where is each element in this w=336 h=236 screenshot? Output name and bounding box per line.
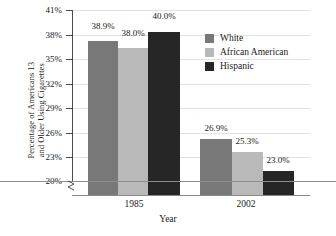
x-tick-label-2002: 2002 [216,199,276,209]
bar-2002-white [200,139,232,195]
y-tick-mark-29 [66,108,72,109]
y-tick-mark-41 [66,10,72,11]
bar-label-1985-hispanic: 40.0% [141,12,187,21]
y-tick-mark-32 [66,84,72,85]
bar-1985-hispanic [148,32,180,195]
legend-item-african-american: African American [205,45,288,59]
y-tick-mark-23 [66,157,72,158]
x-tick-label-1985: 1985 [104,199,164,209]
y-tick-label-26: 26% [28,129,62,138]
x-axis-baseline [72,195,310,196]
legend-item-white: White [205,31,288,45]
bar-1985-white [88,41,118,195]
bar-2002-hispanic [263,171,294,195]
bar-chart: Percentage of Americans 13 and Older Usi… [0,0,336,236]
legend-swatch-hispanic-icon [205,62,214,71]
axis-break-icon [66,180,76,192]
legend: White African American Hispanic [205,31,288,73]
legend-item-hispanic: Hispanic [205,59,288,73]
y-tick-label-29: 29% [28,104,62,113]
bar-label-2002-hispanic: 23.0% [255,156,301,165]
x-axis-title: Year [0,214,336,224]
gridline-41 [73,10,310,11]
legend-swatch-african-american-icon [205,48,214,57]
legend-label-white: White [220,33,243,43]
bar-1985-african-american [118,48,148,195]
bar-label-1985-african-american: 38.0% [110,29,156,38]
y-tick-mark-38 [66,35,72,36]
legend-swatch-white-icon [205,34,214,43]
axis-break-line [0,181,336,182]
legend-label-african-american: African American [220,47,288,57]
y-tick-label-32: 32% [28,80,62,89]
y-tick-mark-26 [66,133,72,134]
y-tick-label-35: 35% [28,55,62,64]
bar-label-2002-african-american: 25.3% [224,137,270,146]
y-tick-label-41: 41% [28,6,62,15]
y-tick-label-23: 23% [28,153,62,162]
bar-label-2002-white: 26.9% [193,124,239,133]
y-tick-label-38: 38% [28,31,62,40]
legend-label-hispanic: Hispanic [220,61,254,71]
y-tick-mark-35 [66,59,72,60]
